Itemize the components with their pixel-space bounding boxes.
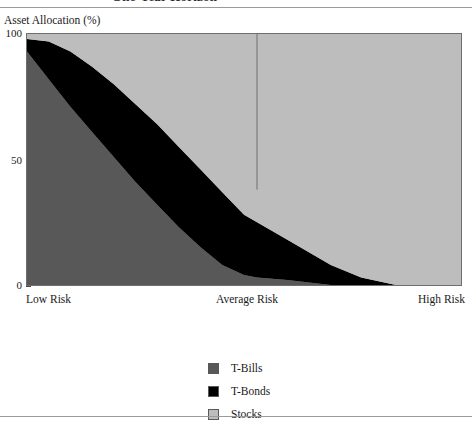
y-tick-mark-0 <box>26 286 31 287</box>
legend-label-t-bills: T-Bills <box>231 362 263 374</box>
chart-plot-area <box>26 33 462 286</box>
y-tick-label-0: 0 <box>0 280 22 291</box>
area-series-group <box>27 34 461 285</box>
legend-item-t-bills: T-Bills <box>208 358 348 378</box>
x-tick-label-high-risk: High Risk <box>418 292 465 306</box>
y-tick-label-100: 100 <box>0 28 22 39</box>
x-tick-label-low-risk: Low Risk <box>26 292 71 306</box>
legend-swatch-t-bills <box>208 363 219 374</box>
stacked-area-chart-svg <box>27 34 461 285</box>
y-tick-label-50: 50 <box>0 155 22 166</box>
legend-label-t-bonds: T-Bonds <box>231 385 270 397</box>
legend-label-stocks: Stocks <box>231 408 262 420</box>
header-divider-rule <box>0 7 472 8</box>
running-title-strip: One-Year Horizon <box>0 0 472 7</box>
legend-item-stocks: Stocks <box>208 404 348 424</box>
y-axis-title: Asset Allocation (%) <box>4 14 100 26</box>
legend-swatch-t-bonds <box>208 386 219 397</box>
x-tick-label-average-risk: Average Risk <box>216 292 278 306</box>
running-title-text: One-Year Horizon <box>112 0 217 5</box>
legend-item-t-bonds: T-Bonds <box>208 381 348 401</box>
legend-swatch-stocks <box>208 409 219 420</box>
chart-legend: T-Bills T-Bonds Stocks <box>208 358 348 424</box>
footer-divider-rule <box>0 416 472 417</box>
